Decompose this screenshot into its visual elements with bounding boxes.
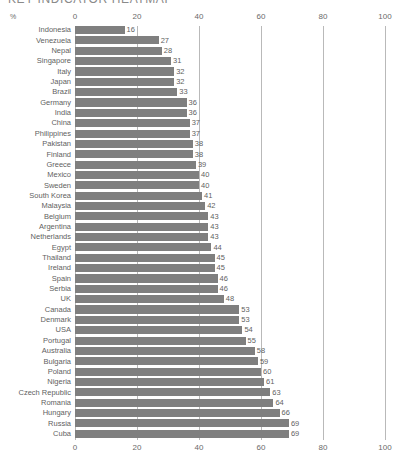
- bar-value-label: 48: [226, 295, 234, 303]
- bar-value-label: 64: [275, 399, 283, 407]
- bar-value-label: 63: [272, 389, 280, 397]
- bar: [75, 264, 215, 272]
- bar-value-label: 40: [201, 182, 209, 190]
- bar: [75, 192, 202, 200]
- bar: [75, 78, 174, 86]
- bar: [75, 388, 270, 396]
- bar: [75, 26, 125, 34]
- bar-row: South Korea41: [0, 192, 405, 200]
- bar-row: Canada53: [0, 305, 405, 313]
- bar-value-label: 46: [220, 275, 228, 283]
- bar: [75, 409, 280, 417]
- bar-row: Pakistan38: [0, 140, 405, 148]
- bar: [75, 316, 239, 324]
- bar-row: Czech Republic63: [0, 388, 405, 396]
- category-label: Nepal: [0, 47, 71, 55]
- axis-unit-label: %: [10, 13, 16, 20]
- category-label: Pakistan: [0, 140, 71, 148]
- category-label: Germany: [0, 99, 71, 107]
- bar-row: Netherlands43: [0, 233, 405, 241]
- bar: [75, 171, 199, 179]
- bar-value-label: 54: [244, 326, 252, 334]
- category-label: Portugal: [0, 337, 71, 345]
- page-title: KEY INDICATOR HEATMAP: [8, 0, 248, 5]
- category-label: Hungary: [0, 409, 71, 417]
- x-tick-label-20: 20: [133, 12, 142, 21]
- category-label: Venezuela: [0, 37, 71, 45]
- bar-value-label: 69: [291, 420, 299, 428]
- bar: [75, 140, 193, 148]
- bar: [75, 233, 208, 241]
- bar-row: Finland38: [0, 150, 405, 158]
- bar: [75, 274, 218, 282]
- bar-row: Indonesia16: [0, 26, 405, 34]
- bar-row: Ireland45: [0, 264, 405, 272]
- bar-value-label: 53: [241, 306, 249, 314]
- bar-value-label: 60: [263, 368, 271, 376]
- bar-row: Italy32: [0, 67, 405, 75]
- bar-value-label: 31: [173, 57, 181, 65]
- bar-value-label: 36: [189, 99, 197, 107]
- bar-value-label: 55: [248, 337, 256, 345]
- category-label: UK: [0, 295, 71, 303]
- category-label: Finland: [0, 151, 71, 159]
- bar-row: Bulgaria59: [0, 357, 405, 365]
- bar: [75, 357, 258, 365]
- bar-row: Australia58: [0, 347, 405, 355]
- bar-value-label: 27: [161, 37, 169, 45]
- bar-row: Sweden40: [0, 181, 405, 189]
- category-label: Greece: [0, 161, 71, 169]
- bar-value-label: 32: [176, 78, 184, 86]
- bar-value-label: 38: [195, 140, 203, 148]
- bar-value-label: 28: [164, 47, 172, 55]
- bar-value-label: 43: [210, 213, 218, 221]
- bar: [75, 36, 159, 44]
- category-label: Spain: [0, 275, 71, 283]
- bar-row: Spain46: [0, 274, 405, 282]
- category-label: Argentina: [0, 223, 71, 231]
- bar: [75, 378, 264, 386]
- bar-row: Belgium43: [0, 212, 405, 220]
- category-label: Ireland: [0, 264, 71, 272]
- bar-row: Brazil33: [0, 88, 405, 96]
- x-tick-label-0: 0: [73, 12, 77, 21]
- x-tick-label-80: 80: [319, 12, 328, 21]
- bar-row: China37: [0, 119, 405, 127]
- bar-value-label: 58: [257, 347, 265, 355]
- bar-value-label: 53: [241, 316, 249, 324]
- bar: [75, 212, 208, 220]
- bar-row: Serbia46: [0, 285, 405, 293]
- category-label: Mexico: [0, 171, 71, 179]
- bar-value-label: 42: [207, 202, 215, 210]
- category-label: Sweden: [0, 182, 71, 190]
- bar: [75, 161, 196, 169]
- category-label: Netherlands: [0, 233, 71, 241]
- bar-row: Denmark53: [0, 316, 405, 324]
- bar-row: UK48: [0, 295, 405, 303]
- bar-row: Nepal28: [0, 47, 405, 55]
- bar: [75, 130, 190, 138]
- bar-value-label: 32: [176, 68, 184, 76]
- category-label: Czech Republic: [0, 389, 71, 397]
- category-label: Thailand: [0, 254, 71, 262]
- bar: [75, 399, 273, 407]
- bar-row: Venezuela27: [0, 36, 405, 44]
- bar-row: Russia69: [0, 419, 405, 427]
- bar-row: Romania64: [0, 399, 405, 407]
- bar-value-label: 46: [220, 285, 228, 293]
- bar-row: Malaysia42: [0, 202, 405, 210]
- category-label: Denmark: [0, 316, 71, 324]
- bar: [75, 337, 246, 345]
- category-label: India: [0, 109, 71, 117]
- category-label: USA: [0, 326, 71, 334]
- x-tick-label-80: 80: [319, 443, 328, 452]
- bar-value-label: 40: [201, 171, 209, 179]
- bar-value-label: 61: [266, 378, 274, 386]
- bar: [75, 47, 162, 55]
- category-label: Belgium: [0, 213, 71, 221]
- bar-row: Cuba69: [0, 430, 405, 438]
- x-tick-label-40: 40: [195, 443, 204, 452]
- bar-value-label: 45: [217, 264, 225, 272]
- bar: [75, 254, 215, 262]
- category-label: Egypt: [0, 244, 71, 252]
